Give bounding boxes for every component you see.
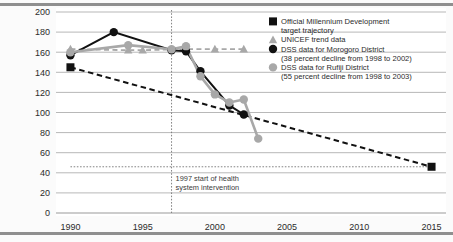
- annotations-group: 1997 start of healthsystem intervention: [70, 10, 431, 213]
- x-tick-label: 2000: [205, 222, 225, 232]
- legend-sublabel-2: (38 percent decline from 1998 to 2002): [281, 54, 412, 63]
- legend: Official Millennium Developmenttarget tr…: [269, 17, 413, 81]
- datapoint-rufiji: [240, 95, 248, 103]
- legend-label-1: UNICEF trend data: [281, 35, 346, 44]
- y-tick-label: 0: [45, 208, 50, 218]
- intervention-annotation-line1: 1997 start of health: [176, 174, 239, 183]
- x-tick-label: 2015: [422, 222, 442, 232]
- y-tick-label: 120: [35, 88, 50, 98]
- legend-marker-2: [269, 45, 277, 53]
- y-tick-label: 60: [40, 148, 50, 158]
- datapoint-rufiji: [225, 98, 233, 106]
- datapoint-rufiji: [124, 41, 132, 49]
- x-tick-label: 1990: [60, 222, 80, 232]
- datapoint-rufiji: [167, 45, 175, 53]
- datapoint-rufiji: [196, 72, 204, 80]
- x-axis-tick-labels: 199019952000200520102015: [60, 222, 441, 232]
- datapoint-rufiji: [254, 134, 262, 142]
- datapoint-rufiji: [182, 42, 190, 50]
- x-tick-label: 1995: [133, 222, 153, 232]
- datapoint-rufiji: [211, 90, 219, 98]
- legend-label-2: DSS data for Morogoro District: [281, 45, 385, 54]
- y-tick-label: 20: [40, 188, 50, 198]
- legend-sublabel-0: target trajectory: [281, 26, 334, 35]
- y-tick-label: 80: [40, 128, 50, 138]
- datapoint-rufiji: [66, 48, 74, 56]
- child-mortality-line-chart: 020406080100120140160180200 199019952000…: [0, 0, 453, 242]
- series-line-morogoro: [70, 32, 243, 114]
- series-line-rufiji: [70, 45, 258, 138]
- legend-marker-3: [269, 63, 277, 71]
- y-tick-label: 40: [40, 168, 50, 178]
- intervention-annotation-line2: system intervention: [176, 183, 240, 192]
- y-tick-label: 160: [35, 48, 50, 58]
- datapoint-morogoro: [110, 28, 118, 36]
- datapoint-target: [428, 163, 436, 171]
- y-tick-label: 140: [35, 68, 50, 78]
- y-tick-label: 200: [35, 7, 50, 17]
- y-tick-label: 100: [35, 108, 50, 118]
- legend-marker-0: [269, 17, 277, 25]
- chart-figure: 020406080100120140160180200 199019952000…: [0, 0, 453, 242]
- datapoint-target: [66, 63, 74, 71]
- x-tick-label: 2005: [277, 222, 297, 232]
- datapoint-morogoro: [240, 110, 248, 118]
- gridlines-group: [56, 12, 446, 213]
- legend-marker-1: [269, 35, 277, 43]
- x-tick-label: 2010: [349, 222, 369, 232]
- legend-label-0: Official Millennium Development: [281, 17, 390, 26]
- y-tick-label: 180: [35, 27, 50, 37]
- y-axis-tick-labels: 020406080100120140160180200: [35, 7, 50, 218]
- legend-sublabel-3: (55 percent decline from 1998 to 2003): [281, 72, 412, 81]
- legend-label-3: DSS data for Rufiji District: [281, 63, 370, 72]
